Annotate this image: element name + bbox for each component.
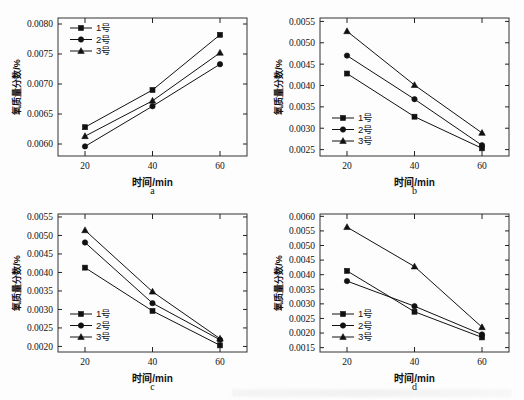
y-axis-title-d: 氧质量分数/% [273, 255, 284, 312]
panel-d: 0.00150.00200.00250.00300.00350.00400.00… [262, 196, 524, 396]
x-ticklabel-a-2: 60 [215, 161, 225, 171]
y-axis-title-a: 氧质量分数/% [11, 59, 22, 116]
x-ticklabel-d-0: 20 [342, 357, 352, 367]
legend-marker-square-b [341, 116, 346, 121]
y-ticklabel-b-5: 0.0050 [289, 38, 315, 48]
data-point-b-2-1 [411, 82, 418, 88]
x-ticklabel-d-2: 60 [477, 357, 487, 367]
legend-marker-square-d [341, 312, 346, 317]
y-ticklabel-d-5: 0.0040 [289, 270, 315, 280]
legend-marker-circle-d [340, 323, 345, 328]
data-point-c-0-0 [83, 265, 88, 270]
legend-label-c-1: 2号 [96, 320, 111, 331]
y-ticklabel-c-0: 0.0020 [27, 342, 53, 352]
chart-b: 0.00250.00300.00350.00400.00450.00500.00… [262, 0, 524, 200]
legend-b: 1号2号3号 [332, 112, 373, 146]
legend-a: 1号2号3号 [70, 22, 111, 56]
y-axis-c: 0.00200.00250.00300.00350.00400.00450.00… [27, 212, 247, 351]
chart-c: 0.00200.00250.00300.00350.00400.00450.00… [0, 196, 262, 396]
x-ticklabel-c-1: 40 [148, 357, 158, 367]
panel-caption-b: b [412, 185, 417, 196]
y-ticklabel-b-1: 0.0030 [289, 124, 315, 134]
y-axis-a: 0.00600.00650.00700.00750.0080 [27, 19, 247, 149]
x-ticklabel-a-0: 20 [80, 161, 90, 171]
legend-marker-circle-a [78, 37, 83, 42]
legend-label-b-2: 3号 [358, 135, 373, 146]
x-ticklabel-b-0: 20 [342, 161, 352, 171]
y-ticklabel-d-8: 0.0055 [289, 226, 315, 236]
data-point-c-0-2 [218, 343, 223, 348]
data-point-a-0-2 [218, 32, 223, 37]
y-ticklabel-d-1: 0.0020 [289, 328, 315, 338]
y-ticklabel-d-3: 0.0030 [289, 299, 315, 309]
data-point-d-0-1 [412, 309, 417, 314]
data-point-c-2-0 [82, 227, 89, 233]
panel-a: 0.00600.00650.00700.00750.0080204060时间/m… [0, 0, 262, 200]
data-point-a-2-1 [149, 97, 156, 103]
data-point-b-1-0 [344, 53, 349, 58]
legend-marker-circle-b [340, 127, 345, 132]
data-point-b-2-0 [344, 28, 351, 34]
page-edge-artifact [232, 389, 512, 397]
legend-label-b-0: 1号 [358, 112, 373, 123]
legend-marker-square-c [79, 312, 84, 317]
data-point-b-0-1 [412, 114, 417, 119]
legend-c: 1号2号3号 [70, 308, 111, 342]
data-point-b-0-0 [345, 71, 350, 76]
data-point-a-0-1 [150, 88, 155, 93]
y-ticklabel-d-6: 0.0045 [289, 255, 315, 265]
y-ticklabel-a-2: 0.0070 [27, 79, 53, 89]
series-a-3号 [82, 49, 224, 138]
data-point-d-1-0 [344, 278, 349, 283]
data-point-b-1-1 [412, 96, 417, 101]
y-axis-title-b: 氧质量分数/% [273, 59, 284, 116]
y-ticklabel-b-2: 0.0035 [289, 102, 315, 112]
x-axis-b: 204060 [342, 18, 487, 171]
data-point-d-0-0 [345, 268, 350, 273]
legend-label-a-2: 3号 [96, 45, 111, 56]
plot-frame-c [58, 214, 247, 352]
x-ticklabel-b-2: 60 [477, 161, 487, 171]
legend-label-c-0: 1号 [96, 308, 111, 319]
legend-d: 1号2号3号 [332, 308, 373, 342]
data-point-a-1-2 [217, 61, 222, 66]
legend-marker-square-a [79, 26, 84, 31]
legend-label-a-1: 2号 [96, 34, 111, 45]
data-point-c-1-1 [150, 300, 155, 305]
legend-label-d-2: 3号 [358, 331, 373, 342]
y-ticklabel-a-1: 0.0065 [27, 109, 53, 119]
y-ticklabel-a-0: 0.0060 [27, 139, 53, 149]
y-ticklabel-d-9: 0.0060 [289, 212, 315, 222]
legend-label-d-1: 2号 [358, 320, 373, 331]
panel-b: 0.00250.00300.00350.00400.00450.00500.00… [262, 0, 524, 200]
series-line-a-2 [85, 53, 220, 136]
data-point-a-2-2 [217, 49, 224, 55]
data-point-d-1-1 [412, 303, 417, 308]
y-ticklabel-b-6: 0.0055 [289, 17, 315, 27]
y-ticklabel-c-5: 0.0045 [27, 249, 53, 259]
y-ticklabel-b-0: 0.0025 [289, 145, 315, 155]
chart-d: 0.00150.00200.00250.00300.00350.00400.00… [262, 196, 524, 396]
legend-label-d-0: 1号 [358, 308, 373, 319]
y-ticklabel-c-2: 0.0030 [27, 305, 53, 315]
data-point-c-1-0 [82, 240, 87, 245]
y-ticklabel-d-7: 0.0050 [289, 241, 315, 251]
data-point-d-2-0 [344, 224, 351, 230]
legend-label-c-2: 3号 [96, 331, 111, 342]
data-point-a-1-0 [82, 144, 87, 149]
data-point-a-1-1 [150, 104, 155, 109]
y-ticklabel-c-6: 0.0050 [27, 231, 53, 241]
y-ticklabel-a-3: 0.0075 [27, 49, 53, 59]
x-ticklabel-b-1: 40 [410, 161, 420, 171]
data-point-c-0-1 [150, 308, 155, 313]
y-ticklabel-d-0: 0.0015 [289, 343, 315, 353]
data-point-a-0-0 [83, 125, 88, 130]
legend-label-b-1: 2号 [358, 124, 373, 135]
data-point-d-1-2 [479, 332, 484, 337]
y-ticklabel-c-3: 0.0035 [27, 286, 53, 296]
data-point-a-2-0 [82, 133, 89, 139]
y-ticklabel-d-4: 0.0035 [289, 285, 315, 295]
legend-label-a-0: 1号 [96, 22, 111, 33]
y-ticklabel-b-4: 0.0045 [289, 60, 315, 70]
y-ticklabel-a-4: 0.0080 [27, 19, 53, 29]
